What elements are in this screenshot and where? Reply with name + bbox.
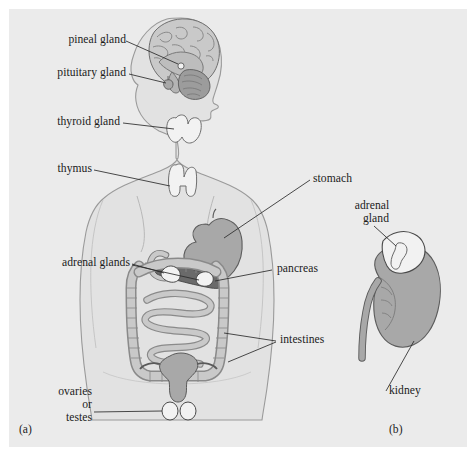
pineal-gland-shape	[178, 63, 184, 69]
panel-caption-a: (a)	[19, 423, 32, 436]
label-intestines: intestines	[280, 334, 324, 347]
label-adrenal-gland-b-line2: gland	[334, 213, 418, 226]
label-adrenal-glands: adrenal glands	[12, 257, 130, 270]
figure-root: pineal gland pituitary gland thyroid gla…	[0, 0, 476, 456]
label-pineal-gland: pineal gland	[18, 34, 126, 47]
label-ovaries-or: or	[30, 399, 92, 412]
label-adrenal-gland-b-line1: adrenal	[330, 200, 414, 213]
label-ovaries: ovaries	[30, 386, 92, 399]
label-thyroid-gland: thyroid gland	[14, 116, 120, 129]
pituitary-gland-shape	[164, 80, 173, 90]
label-testes: testes	[30, 412, 92, 425]
label-stomach: stomach	[313, 173, 352, 186]
label-pancreas: pancreas	[277, 263, 318, 276]
label-kidney: kidney	[389, 385, 421, 398]
label-thymus: thymus	[20, 163, 92, 176]
panel-caption-b: (b)	[389, 423, 403, 436]
label-pituitary-gland: pituitary gland	[8, 67, 126, 80]
